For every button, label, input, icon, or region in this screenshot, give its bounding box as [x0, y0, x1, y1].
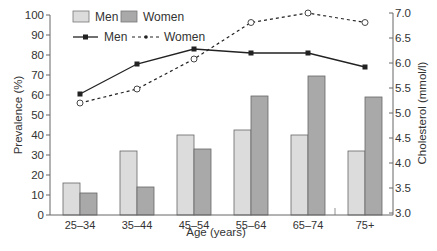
bar-women-4 [308, 76, 325, 215]
bar-men-2 [177, 135, 194, 215]
bars-layer [63, 76, 382, 215]
chart-container: 01020304050607080901003.03.54.04.55.05.5… [0, 0, 437, 251]
bar-women-3 [251, 96, 268, 215]
marker-women-5 [362, 20, 368, 26]
y-tick-label-left: 70 [31, 69, 44, 81]
bar-women-2 [194, 149, 211, 215]
y-tick-label-right: 7.0 [395, 7, 411, 19]
y-tick-label-left: 20 [31, 169, 44, 181]
legend-label-women-line: Women [164, 30, 205, 44]
y-tick-label-left: 100 [25, 9, 44, 21]
x-tick-label: 35–44 [122, 219, 153, 231]
marker-women-1 [134, 86, 140, 92]
y-axis-label-left: Prevalence (%) [12, 76, 24, 155]
legend-label-men-line: Men [104, 30, 127, 44]
bar-women-5 [365, 97, 382, 215]
y-tick-label-right: 5.0 [395, 107, 411, 119]
legend: Men Women Men Women [73, 10, 205, 44]
legend-swatch-women-bar [121, 11, 137, 22]
bar-women-0 [80, 193, 97, 215]
marker-men-4 [306, 51, 311, 56]
marker-men-0 [78, 92, 83, 97]
y-tick-label-left: 40 [31, 129, 44, 141]
y-axis-label-right: Cholesterol (mmol/l) [416, 61, 428, 164]
y-tick-label-right: 4.0 [395, 157, 411, 169]
y-tick-label-right: 3.5 [395, 182, 411, 194]
y-tick-label-left: 0 [38, 209, 44, 221]
y-tick-label-left: 10 [31, 189, 44, 201]
legend-marker-women [144, 35, 148, 39]
legend-label-women-bar: Women [143, 10, 184, 24]
y-tick-label-right: 4.5 [395, 132, 411, 144]
bar-men-5 [348, 151, 365, 215]
y-tick-label-left: 60 [31, 89, 44, 101]
marker-men-2 [192, 47, 197, 52]
x-tick-label: 75+ [356, 219, 375, 231]
legend-marker-men [83, 35, 88, 40]
y-tick-label-left: 50 [31, 109, 44, 121]
x-tick-label: 65–74 [293, 219, 324, 231]
legend-label-men-bar: Men [95, 10, 118, 24]
bar-women-1 [137, 187, 154, 215]
marker-women-4 [305, 10, 311, 16]
marker-men-5 [363, 65, 368, 70]
y-tick-label-left: 30 [31, 149, 44, 161]
marker-women-0 [77, 100, 83, 106]
bar-men-0 [63, 183, 80, 215]
y-tick-label-right: 3.0 [395, 207, 411, 219]
x-axis-label: Age (years) [186, 226, 246, 238]
y-tick-label-left: 90 [31, 29, 44, 41]
y-tick-label-right: 5.5 [395, 82, 411, 94]
x-tick-label: 25–34 [65, 219, 96, 231]
bar-men-3 [234, 130, 251, 215]
marker-men-3 [249, 51, 254, 56]
marker-women-2 [191, 56, 197, 62]
marker-men-1 [135, 62, 140, 67]
y-tick-label-right: 6.5 [395, 32, 411, 44]
y-tick-label-left: 80 [31, 49, 44, 61]
chart-svg: 01020304050607080901003.03.54.04.55.05.5… [0, 0, 437, 251]
bar-men-4 [291, 135, 308, 215]
legend-swatch-men-bar [73, 11, 89, 22]
y-tick-label-right: 6.0 [395, 57, 411, 69]
marker-women-3 [248, 20, 254, 26]
bar-men-1 [120, 151, 137, 215]
